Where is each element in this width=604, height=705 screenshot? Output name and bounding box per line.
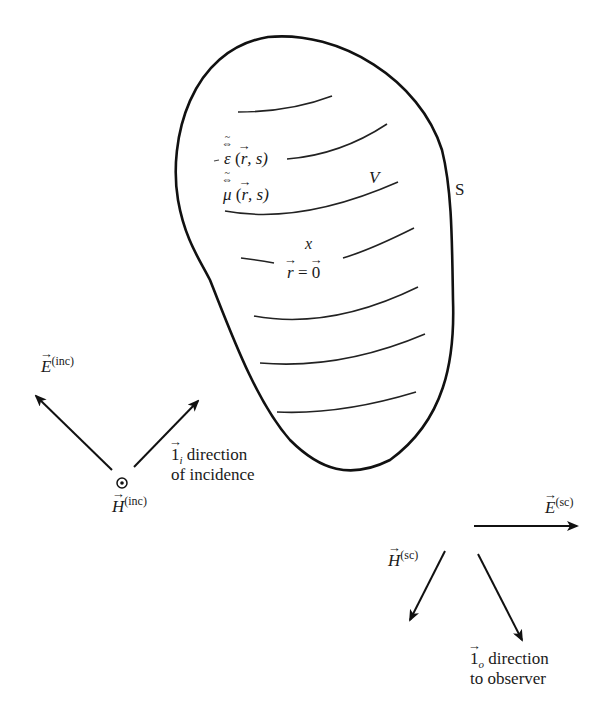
surface-label: S <box>455 181 464 198</box>
scattered-direction-label: 1o direction to observer <box>470 650 549 689</box>
inhomogeneity-contours <box>225 96 425 412</box>
origin-label: r = 0 <box>287 264 320 281</box>
volume-label: V <box>369 169 379 186</box>
scattered-H-label: H(sc) <box>388 549 418 569</box>
incident-direction-label: 1i direction of incidence <box>171 446 255 483</box>
scattered-direction-arrow <box>478 554 522 640</box>
scattering-diagram <box>0 0 604 705</box>
incident-E-label: E(inc) <box>41 355 74 375</box>
scattered-E-label: E(sc) <box>545 496 573 516</box>
permeability-label: μ (r, s) <box>223 186 269 203</box>
incident-E-arrow <box>36 396 112 470</box>
origin-marker: x <box>305 236 312 252</box>
permittivity-label: ε (r, s) <box>224 150 268 167</box>
incident-H-label: H(inc) <box>112 495 147 515</box>
